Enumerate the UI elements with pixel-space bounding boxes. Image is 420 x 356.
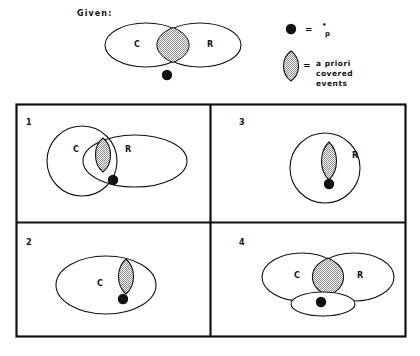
given-venn-diagram <box>105 23 241 80</box>
figure-vector-layer <box>0 0 420 356</box>
panel-2-number: 2 <box>26 239 32 247</box>
legend-point-marker-icon <box>286 24 296 34</box>
panel-1-label-r: R <box>125 146 131 154</box>
panel-3-label-r: R <box>352 152 358 160</box>
panel-4-point-marker <box>316 297 326 307</box>
panel-4-label-r: R <box>357 272 363 280</box>
panel-2-label-c: C <box>97 280 103 288</box>
legend-equals-lens: = <box>303 61 311 70</box>
given-label-c: C <box>134 41 140 49</box>
panel-2-shaded-lens <box>119 259 134 294</box>
legend-symbols <box>284 24 299 81</box>
panel-3-point-marker <box>324 179 334 189</box>
panel-2-point-marker <box>118 294 128 304</box>
legend-point-label: p <box>325 31 330 38</box>
legend-lens-line-2: covered <box>316 69 353 79</box>
given-label-r: R <box>207 41 213 49</box>
panel-4-shaded-lens <box>312 258 343 296</box>
panel-4-label-c: C <box>294 272 300 280</box>
legend-equals-point: = <box>305 25 313 34</box>
legend-shaded-lens-icon <box>284 51 299 81</box>
given-shaded-lens <box>157 28 189 63</box>
panel-2-set-c-ellipse <box>56 256 156 314</box>
panel-2-diagram <box>56 256 156 314</box>
given-heading: Given: <box>77 10 112 18</box>
panel-3-diagram <box>290 133 360 203</box>
legend-point-superscript-dot: • <box>322 22 327 29</box>
panel-1-label-c: C <box>73 146 79 154</box>
panel-4-diagram <box>262 253 394 316</box>
figure-root: Given: C R = • p = a priori covered even… <box>0 0 420 356</box>
panel-3-number: 3 <box>239 119 245 127</box>
given-point-marker <box>162 70 172 80</box>
panel-1-number: 1 <box>26 119 32 127</box>
panel-3-shaded-lens <box>322 142 337 180</box>
panel-1-diagram <box>47 126 187 196</box>
panel-1-point-marker <box>108 175 118 185</box>
panel-4-number: 4 <box>239 239 245 247</box>
legend-lens-line-3: events <box>316 79 347 89</box>
legend-lens-line-1: a priori <box>316 59 351 69</box>
